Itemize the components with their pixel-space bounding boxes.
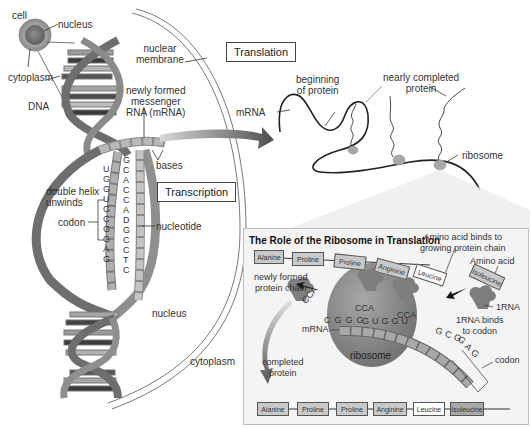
panel-mrna-label: mRNA <box>302 324 329 335</box>
mrna-bases-2: GUGGU <box>362 316 411 326</box>
ribosome-top-label: ribosome <box>462 150 503 161</box>
amino-acid-label: Amino acid <box>470 256 515 267</box>
bases-label: bases <box>156 160 183 171</box>
cell-label: cell <box>12 10 27 21</box>
translation-box: Translation <box>226 42 296 62</box>
mrna-bases-1: CGGG <box>324 315 368 325</box>
template-strand-letters: GCACCADGCCTC <box>123 155 130 275</box>
trna-label: 1RNA <box>496 302 520 313</box>
completed-anginine: Anginine <box>373 402 407 416</box>
nucleus-top-label: nucleus <box>58 19 92 30</box>
codon-label-panel: codon <box>495 355 520 366</box>
amino-acid-proline-2: Proline <box>333 253 366 270</box>
anticodon-1: CCA <box>355 303 374 313</box>
completed-proline-2: Proline <box>336 402 368 416</box>
amino-acid-proline-1: Proline <box>292 252 324 266</box>
amino-acid-alanine: Alanine <box>254 250 284 264</box>
nuclear-membrane-label: nuclearmembrane <box>136 43 184 65</box>
beginning-protein-label: beginningof protein <box>296 74 339 96</box>
incoming-trna-arrow <box>446 288 467 299</box>
double-helix-label: double helixunwinds <box>46 186 99 208</box>
cytoplasm-bottom-label: cytoplasm <box>190 356 235 367</box>
completed-alanine: Alanine <box>257 402 289 416</box>
nearly-completed-label: nearly completedprotein <box>383 72 459 94</box>
completed-leucine: Leucine <box>413 402 445 416</box>
cytoplasm-top-label: cytoplasm <box>8 72 53 83</box>
nucleus-bottom-label: nucleus <box>152 308 186 319</box>
transcription-box: Transcription <box>157 182 236 202</box>
newly-formed-chain-label: newly formedprotein chain <box>254 272 308 294</box>
mrna-strand-letters: UGGUGCGGAG <box>103 164 110 264</box>
completed-proline-1: Proline <box>297 402 329 416</box>
nucleotide-label: nucleotide <box>156 221 202 232</box>
codon-label: codon <box>58 217 85 228</box>
mrna-formed-label: newly formedmessengerRNA (mRNA) <box>126 85 185 118</box>
mrna-label: mRNA <box>236 107 265 118</box>
completed-protein-label: completedprotein <box>262 357 304 379</box>
amino-binds-label: Amino acid binds togrowing protein chain <box>420 232 506 254</box>
ribosome-label: ribosome <box>350 350 391 361</box>
completed-isoleucine: Isoleucine <box>450 402 484 416</box>
dna-label: DNA <box>28 101 49 112</box>
